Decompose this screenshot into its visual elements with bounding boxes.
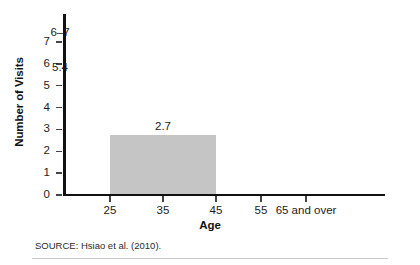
y-tick-label: 3 xyxy=(32,123,50,135)
y-tick-label: 2 xyxy=(32,145,50,157)
y-tick-mark xyxy=(56,151,62,152)
y-tick-label-text: 1 xyxy=(36,167,50,179)
bar xyxy=(110,135,216,194)
y-tick-mark xyxy=(56,129,62,130)
x-tick-mark xyxy=(109,196,110,202)
y-tick-mark xyxy=(56,172,62,173)
y-tick-label-text: 2 xyxy=(36,145,50,157)
x-tick-mark xyxy=(215,196,216,202)
y-tick-label: 1 xyxy=(32,167,50,179)
y-tick-mark xyxy=(56,194,62,195)
x-tick-mark xyxy=(305,196,306,202)
x-tick-label: 65 and over xyxy=(246,204,366,216)
y-tick-label: 0 xyxy=(32,189,50,201)
y-tick-label: 4 xyxy=(32,102,50,114)
y-axis-line xyxy=(63,14,66,196)
y-tick-mark xyxy=(56,107,62,108)
y-tick-mark xyxy=(56,85,62,86)
bar-value-label: 2.7 xyxy=(103,120,223,132)
y-tick-mark xyxy=(56,41,62,42)
x-tick-mark xyxy=(162,196,163,202)
x-tick-mark xyxy=(260,196,261,202)
footer-divider xyxy=(32,258,388,259)
y-tick-label: 5 xyxy=(32,80,50,92)
y-tick-label-text: 3 xyxy=(36,123,50,135)
y-axis-title: Number of Visits xyxy=(13,47,25,157)
x-axis-title: Age xyxy=(0,219,420,231)
source-note: SOURCE: Hsiao et al. (2010). xyxy=(35,240,161,251)
y-tick-label-text: 4 xyxy=(36,102,50,114)
plot-area: 01234567 2.75.46–7 2535455565 and over N… xyxy=(0,0,420,230)
y-tick-label-text: 0 xyxy=(36,189,50,201)
bar-value-label: 6–7 xyxy=(0,26,120,38)
y-tick-label-text: 5 xyxy=(36,80,50,92)
figure-bar-chart-number-of-visits-by-age: 01234567 2.75.46–7 2535455565 and over N… xyxy=(0,0,420,265)
